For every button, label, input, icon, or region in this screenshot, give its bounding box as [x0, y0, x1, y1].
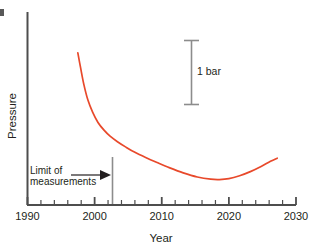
x-axis-ticks	[28, 197, 297, 205]
limit-annotation-line-2: measurements	[30, 176, 96, 188]
pressure-vs-year-chart: 19902000201020202030 Year Pressure Limit…	[0, 0, 322, 252]
x-axis-tick-label: 2030	[281, 210, 311, 222]
x-axis-label: Year	[0, 232, 322, 244]
x-axis-tick-label: 1990	[13, 210, 43, 222]
x-axis-tick-label: 2010	[147, 210, 177, 222]
y-axis-label: Pressure	[6, 86, 18, 146]
limit-annotation-line-1: Limit of	[30, 165, 62, 177]
pressure-curve	[78, 53, 277, 180]
x-axis-tick-label: 2000	[80, 210, 110, 222]
scale-bar-label: 1 bar	[197, 65, 221, 77]
x-axis-tick-label: 2020	[214, 210, 244, 222]
